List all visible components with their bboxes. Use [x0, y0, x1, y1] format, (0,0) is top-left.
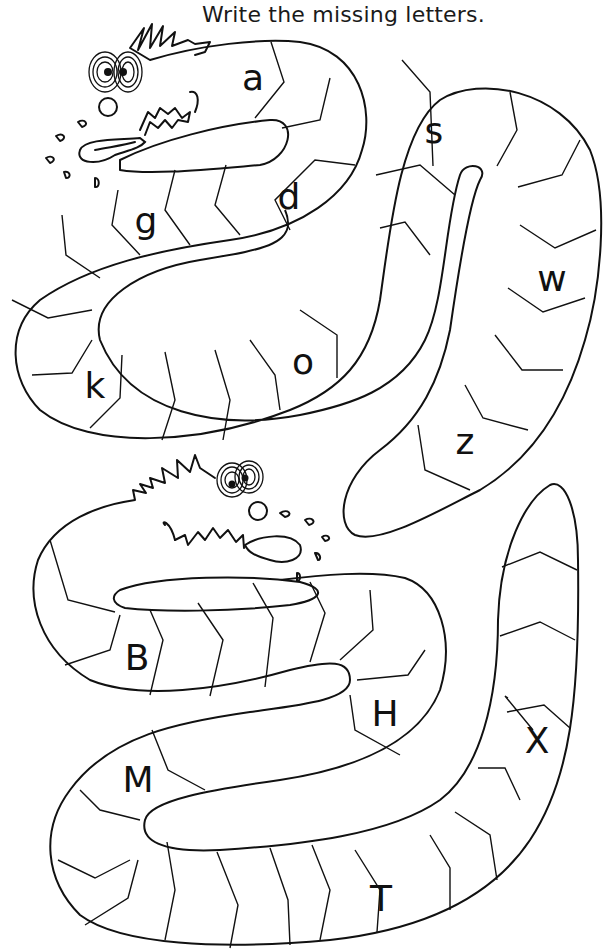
- lower-letter-X: X: [525, 723, 550, 759]
- lower-snake: [34, 484, 579, 948]
- upper-snake: [12, 41, 601, 537]
- lower-snake-hair-icon: [133, 455, 215, 500]
- lower-letter-M: M: [122, 762, 153, 798]
- upper-letter-g: g: [135, 203, 158, 239]
- lower-snake-tongue-icon: [245, 536, 301, 562]
- upper-letter-o: o: [292, 344, 314, 380]
- upper-letter-w: w: [537, 261, 566, 297]
- lower-snake-jaw: [114, 577, 318, 610]
- lower-snake-smile-icon: [164, 522, 175, 540]
- lower-snake-teeth-icon: [175, 528, 244, 548]
- lower-snake-face: [133, 455, 329, 581]
- lower-letter-T: T: [370, 881, 392, 917]
- upper-snake-nose-icon: [99, 98, 117, 116]
- upper-snake-teeth-icon: [140, 108, 190, 135]
- upper-letter-a: a: [242, 60, 264, 96]
- upper-letter-s: s: [425, 113, 444, 149]
- snakes-illustration: [0, 0, 607, 952]
- lower-letter-B: B: [125, 640, 150, 676]
- lower-snake-eyes-icon: [217, 461, 263, 497]
- lower-letter-H: H: [371, 696, 398, 732]
- upper-letter-z: z: [456, 424, 475, 460]
- upper-snake-jaw: [120, 120, 288, 172]
- upper-letter-d: d: [278, 179, 301, 215]
- lower-snake-nose-icon: [249, 502, 267, 520]
- upper-snake-eyes-icon: [89, 52, 142, 92]
- upper-letter-k: k: [85, 368, 106, 404]
